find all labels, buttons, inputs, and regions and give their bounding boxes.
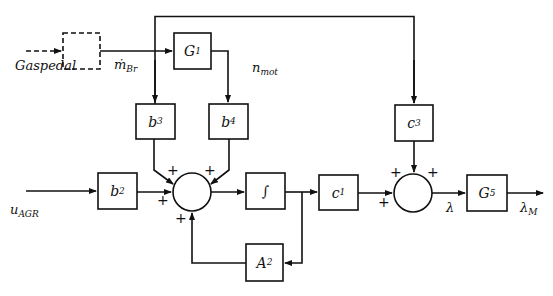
- block-c3: c3: [395, 105, 433, 141]
- block-b4: b4: [209, 104, 248, 139]
- sum2-plus-left-top: +: [390, 165, 402, 179]
- sum2-plus-c1: +: [378, 195, 390, 209]
- block-b4-sub: 4: [230, 117, 236, 126]
- m-br-label: ṁBr: [114, 58, 137, 74]
- block-b3: b3: [136, 104, 175, 139]
- block-b4-base: b: [221, 115, 230, 129]
- n-mot-label: nmot: [252, 61, 278, 77]
- block-g1: G1: [174, 33, 211, 69]
- block-b2-sub: 2: [119, 187, 125, 196]
- gaspedal-label: Gaspedal: [15, 59, 76, 72]
- block-c1: c1: [319, 175, 358, 210]
- block-b3-base: b: [148, 115, 157, 129]
- block-g5-base: G: [479, 186, 490, 200]
- lambda-label: λ: [446, 201, 454, 214]
- block-g1-base: G: [184, 44, 195, 58]
- block-c1-base: c: [332, 186, 340, 200]
- block-b3-sub: 3: [157, 117, 163, 126]
- u-agr-sub: AGR: [18, 209, 38, 219]
- block-g5-sub: 5: [490, 189, 496, 198]
- integral-icon: ∫: [262, 184, 269, 198]
- block-g1-sub: 1: [195, 47, 201, 56]
- sum2-plus-right-top: +: [427, 165, 439, 179]
- block-integrator: ∫: [246, 173, 285, 209]
- lambda-m-base: λ: [520, 200, 528, 215]
- sum1-plus-b3: +: [167, 163, 179, 177]
- block-a2-base: A: [257, 256, 267, 270]
- sum1-plus-a2: +: [175, 211, 187, 225]
- lambda-m-sub: M: [528, 207, 537, 217]
- block-c3-sub: 3: [415, 119, 421, 128]
- block-a2-sub: 2: [267, 258, 273, 267]
- block-diagram: Gaspedal ṁBr nmot uAGR λ λM G1 b3 b4 b2 …: [0, 0, 553, 296]
- sum1-plus-b2: +: [157, 193, 169, 207]
- m-br-sub: Br: [126, 64, 137, 74]
- block-a2: A2: [246, 244, 283, 281]
- block-b2: b2: [98, 173, 137, 209]
- block-c1-sub: 1: [340, 188, 346, 197]
- block-g5: G5: [467, 175, 507, 211]
- n-mot-sub: mot: [260, 67, 278, 77]
- block-c3-base: c: [407, 116, 415, 130]
- block-b2-base: b: [110, 184, 119, 198]
- u-agr-label: uAGR: [10, 203, 39, 219]
- lambda-m-label: λM: [520, 201, 537, 217]
- m-br-base: ṁ: [114, 57, 126, 72]
- sum1-plus-b4: +: [204, 163, 216, 177]
